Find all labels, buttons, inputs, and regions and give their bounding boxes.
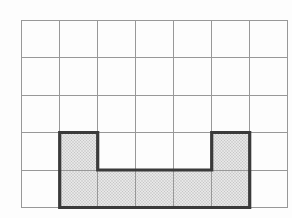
worksheet-figure-area: [0, 0, 292, 218]
grid-figure: [0, 0, 292, 218]
